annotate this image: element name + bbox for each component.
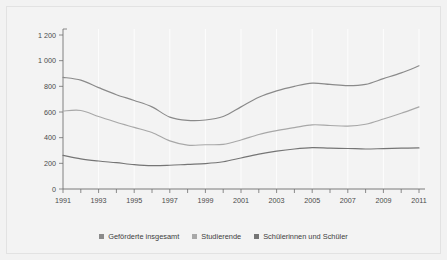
legend-item[interactable]: Schülerinnen und Schüler xyxy=(254,233,348,240)
legend-item-label: Geförderte insgesamt xyxy=(108,233,179,240)
legend-swatch-icon xyxy=(99,234,104,239)
svg-text:1991: 1991 xyxy=(55,196,71,205)
legend-item[interactable]: Studierende xyxy=(192,233,241,240)
line-chart-svg: 02004006008001 0001 200 1991199319951997… xyxy=(7,7,442,255)
svg-text:400: 400 xyxy=(44,133,56,142)
x-axis-ticks-group xyxy=(63,189,419,193)
svg-text:2011: 2011 xyxy=(411,196,426,205)
svg-text:1 000: 1 000 xyxy=(38,56,56,65)
x-axis-labels-group: 1991199319951997199920012003200520072009… xyxy=(55,196,427,205)
legend-item[interactable]: Geförderte insgesamt xyxy=(99,233,179,240)
svg-text:2003: 2003 xyxy=(269,196,285,205)
y-axis-labels-group: 02004006008001 0001 200 xyxy=(38,31,56,194)
svg-text:1 200: 1 200 xyxy=(38,31,56,40)
svg-text:2007: 2007 xyxy=(340,196,356,205)
svg-text:1993: 1993 xyxy=(91,196,107,205)
svg-text:0: 0 xyxy=(52,185,56,194)
legend-swatch-icon xyxy=(254,234,259,239)
svg-text:2005: 2005 xyxy=(304,196,320,205)
svg-text:2009: 2009 xyxy=(375,196,391,205)
svg-text:2001: 2001 xyxy=(233,196,249,205)
legend-item-label: Studierende xyxy=(201,233,241,240)
legend-swatch-icon xyxy=(192,234,197,239)
svg-text:1997: 1997 xyxy=(162,196,178,205)
chart-legend: Geförderte insgesamt Studierende Schüler… xyxy=(7,233,440,240)
gridlines-group xyxy=(63,29,419,189)
svg-text:600: 600 xyxy=(44,108,56,117)
chart-figure: 02004006008001 0001 200 1991199319951997… xyxy=(0,0,447,260)
svg-text:200: 200 xyxy=(44,159,56,168)
svg-text:1995: 1995 xyxy=(126,196,142,205)
axes-group xyxy=(63,29,425,189)
legend-item-label: Schülerinnen und Schüler xyxy=(263,233,348,240)
plot-area: 02004006008001 0001 200 1991199319951997… xyxy=(7,7,440,253)
svg-text:800: 800 xyxy=(44,82,56,91)
svg-text:1999: 1999 xyxy=(197,196,213,205)
chart-frame: 02004006008001 0001 200 1991199319951997… xyxy=(6,6,441,254)
